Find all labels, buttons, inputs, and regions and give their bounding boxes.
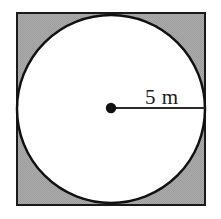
figure-canvas: 5 m: [0, 0, 221, 219]
radius-measurement-label: 5 m: [145, 85, 179, 109]
geometry-figure: 5 m: [0, 0, 221, 219]
circle-center-dot: [106, 103, 116, 113]
